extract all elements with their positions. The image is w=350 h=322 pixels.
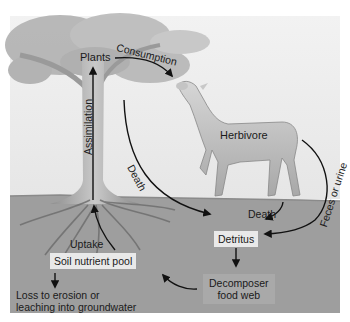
diagram-illustration — [0, 0, 350, 322]
herbivore-label: Herbivore — [220, 130, 268, 141]
loss-label-line1: Loss to erosion or — [16, 289, 136, 301]
detritus-label: Detritus — [218, 233, 254, 245]
loss-label: Loss to erosion or leaching into groundw… — [16, 289, 136, 313]
decomposer-food-web-box: Decomposer food web — [203, 274, 275, 304]
loss-label-line2: leaching into groundwater — [16, 301, 136, 313]
detritus-box: Detritus — [214, 231, 258, 247]
herbivore-death-label: Death — [248, 209, 276, 220]
soil-nutrient-pool-box: Soil nutrient pool — [50, 253, 136, 269]
uptake-label: Uptake — [70, 239, 103, 250]
soil-nutrient-pool-label: Soil nutrient pool — [54, 255, 132, 267]
decomposer-label-line1: Decomposer — [209, 277, 269, 289]
plants-label: Plants — [80, 52, 111, 63]
assimilation-label: Assimilation — [83, 99, 94, 155]
nutrient-cycle-diagram: Plants Consumption Assimilation Death He… — [0, 0, 350, 322]
decomposer-label-line2: food web — [209, 289, 269, 301]
